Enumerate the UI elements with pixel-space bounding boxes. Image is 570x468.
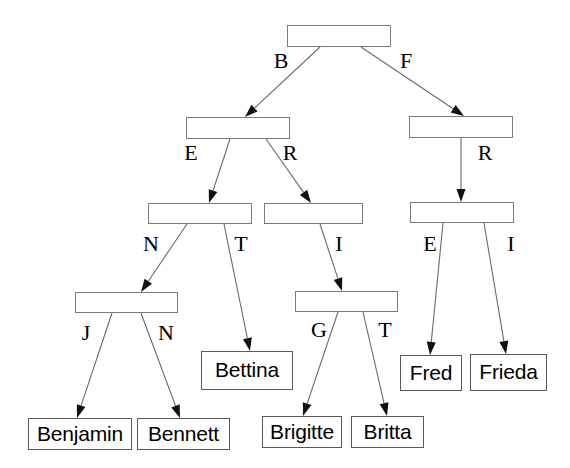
leaf-node-britta: Britta	[351, 416, 424, 448]
internal-node-f	[409, 116, 513, 138]
arrow-head-fr-fred	[427, 342, 436, 355]
leaf-node-brigitte: Brigitte	[262, 416, 342, 448]
arrow-head-root-f	[451, 105, 464, 116]
trie-diagram-canvas: BettinaFredFriedaBenjaminBennettBrigitte…	[0, 0, 570, 468]
edge-line-fr-frieda	[484, 223, 504, 341]
leaf-node-bettina: Bettina	[201, 351, 293, 390]
arrow-head-b-be	[209, 189, 218, 203]
edge-label-fr-fred: E	[423, 233, 436, 255]
arrow-head-b-br	[300, 190, 311, 203]
edge-line-b-be	[213, 139, 230, 191]
edge-label-b-be: E	[184, 142, 197, 164]
internal-node-ben	[75, 292, 178, 313]
edge-label-root-b: B	[274, 50, 289, 72]
leaf-node-benjamin: Benjamin	[28, 418, 132, 450]
internal-node-fr	[410, 202, 514, 223]
arrow-head-bri-britta	[380, 402, 389, 416]
edge-label-b-br: R	[283, 142, 298, 164]
internal-node-br	[264, 203, 363, 224]
edge-label-br-bri: I	[335, 233, 342, 255]
edge-label-be-ben: N	[143, 233, 159, 255]
internal-node-be	[148, 203, 252, 224]
internal-node-root	[287, 25, 391, 47]
arrow-head-be-ben	[141, 279, 152, 292]
arrow-head-fr-frieda	[499, 340, 508, 354]
arrow-head-ben-bennett	[171, 404, 180, 418]
edge-label-bri-britta: T	[378, 319, 391, 341]
arrow-head-br-bri	[334, 277, 343, 291]
leaf-node-bennett: Bennett	[137, 418, 230, 450]
arrow-head-be-bettina	[243, 337, 252, 351]
edge-label-ben-bennett: N	[158, 322, 174, 344]
edge-label-fr-frieda: I	[507, 233, 514, 255]
internal-node-bri	[295, 291, 398, 312]
arrow-head-ben-benjamin	[77, 404, 86, 418]
arrow-head-bri-brigitte	[303, 402, 312, 416]
edge-label-ben-benjamin: J	[82, 322, 91, 344]
edge-label-bri-brigitte: G	[311, 319, 327, 341]
leaf-node-frieda: Frieda	[470, 354, 547, 391]
internal-node-b	[186, 117, 290, 139]
leaf-node-fred: Fred	[400, 355, 462, 391]
edge-label-root-f: F	[400, 50, 412, 72]
edge-label-be-bettina: T	[234, 233, 247, 255]
edge-label-f-fr: R	[478, 142, 493, 164]
arrow-head-f-fr	[457, 189, 466, 202]
